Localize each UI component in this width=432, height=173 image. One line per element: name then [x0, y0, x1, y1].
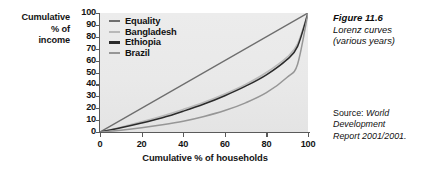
figure-caption-subtitle-line2: (various years)	[333, 35, 429, 46]
legend-item: Equality	[109, 16, 177, 27]
x-tick-mark	[142, 133, 143, 137]
y-axis-title: Cumulative % of income	[2, 12, 70, 47]
y-tick-label: 30	[72, 92, 96, 101]
legend-item: Brazil	[109, 48, 177, 59]
y-tick-label: 90	[72, 20, 96, 29]
y-axis-tick-labels: 0102030405060708090100	[72, 8, 96, 136]
figure-source-lead: Source:	[333, 108, 366, 118]
y-tick-label: 50	[72, 68, 96, 77]
y-tick-label: 80	[72, 32, 96, 41]
x-tick-label: 60	[220, 139, 230, 149]
x-tick-mark	[266, 133, 267, 137]
x-axis-line	[99, 132, 310, 133]
x-tick-mark	[308, 133, 309, 137]
y-tick-label: 40	[72, 80, 96, 89]
figure-source: Source: World Development Report 2001/20…	[333, 108, 431, 142]
y-tick-mark	[96, 49, 100, 50]
x-tick-label: 80	[261, 139, 271, 149]
legend-item-label: Equality	[125, 16, 160, 27]
figure-source-line3: Report 2001/2001.	[333, 131, 431, 142]
legend-swatch-icon	[109, 31, 120, 33]
y-tick-mark	[96, 120, 100, 121]
y-tick-label: 10	[72, 115, 96, 124]
figure-caption-title: Figure 11.6	[333, 12, 429, 24]
y-tick-mark	[96, 108, 100, 109]
x-tick-label: 40	[178, 139, 188, 149]
x-tick-mark	[100, 133, 101, 137]
y-tick-mark	[96, 25, 100, 26]
x-tick-label: 20	[137, 139, 147, 149]
x-axis-tick-labels: 020406080100	[100, 139, 310, 153]
y-tick-mark	[96, 73, 100, 74]
y-axis-title-line1: Cumulative	[2, 12, 70, 24]
y-tick-mark	[96, 96, 100, 97]
chart-legend: EqualityBangladeshEthiopiaBrazil	[109, 16, 177, 58]
y-tick-label: 0	[72, 127, 96, 136]
y-tick-mark	[96, 61, 100, 62]
y-tick-label: 20	[72, 104, 96, 113]
legend-swatch-icon	[109, 52, 120, 54]
y-tick-mark	[96, 132, 100, 133]
figure-source-line2: Development	[333, 119, 431, 130]
y-tick-label: 100	[72, 8, 96, 17]
legend-swatch-icon	[109, 41, 120, 43]
y-tick-mark	[96, 37, 100, 38]
y-tick-mark	[96, 13, 100, 14]
x-tick-label: 0	[98, 139, 103, 149]
figure-caption-subtitle-line1: Lorenz curves	[333, 24, 429, 35]
x-tick-mark	[183, 133, 184, 137]
figure-caption-subtitle: Lorenz curves (various years)	[333, 24, 429, 47]
legend-item-label: Brazil	[125, 48, 150, 59]
y-axis-title-line3: income	[2, 35, 70, 47]
y-tick-mark	[96, 84, 100, 85]
x-tick-label: 100	[301, 139, 316, 149]
figure-source-text1: World	[366, 108, 389, 118]
legend-swatch-icon	[109, 20, 120, 22]
y-tick-label: 60	[72, 56, 96, 65]
x-axis-title: Cumulative % of households	[100, 152, 310, 163]
y-tick-label: 70	[72, 44, 96, 53]
x-tick-mark	[225, 133, 226, 137]
y-axis-title-line2: % of	[2, 24, 70, 36]
lorenz-curve-figure: Cumulative % of income 01020304050607080…	[0, 0, 432, 173]
figure-source-line1: Source: World	[333, 108, 431, 119]
figure-caption: Figure 11.6 Lorenz curves (various years…	[333, 12, 429, 46]
